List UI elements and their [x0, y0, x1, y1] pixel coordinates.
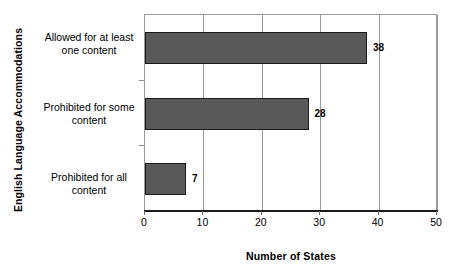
- category-label-line: content: [36, 114, 142, 127]
- bar-value-label: 38: [373, 42, 384, 53]
- x-axis-tick-label: 50: [416, 216, 456, 228]
- category-label-line: content: [36, 184, 142, 197]
- x-axis-tick: [202, 211, 203, 215]
- category-label-line: Allowed for at least: [36, 31, 142, 44]
- x-axis-line: [144, 210, 438, 212]
- category-label-line: Prohibited for all: [36, 171, 142, 184]
- bar-chart: English Language Accommodations Allowed …: [0, 0, 468, 280]
- x-axis-tick-label: 30: [299, 216, 339, 228]
- x-axis-tick-label: 40: [358, 216, 398, 228]
- x-axis-title: Number of States: [144, 250, 438, 262]
- x-axis-tick-label: 0: [124, 216, 164, 228]
- category-label-prohibited-for-all-content: Prohibited for all content: [36, 171, 142, 197]
- category-label-allowed-for-at-least-one-content: Allowed for at least one content: [36, 31, 142, 57]
- y-axis-title: English Language Accommodations: [0, 0, 36, 240]
- bar: [145, 163, 186, 195]
- x-axis-tick: [319, 211, 320, 215]
- category-label-line: Prohibited for some: [36, 101, 142, 114]
- category-labels: Allowed for at least one content Prohibi…: [36, 14, 142, 211]
- x-axis-tick: [436, 211, 437, 215]
- plot-inner: 38287: [145, 15, 436, 210]
- bar: [145, 98, 309, 130]
- bar: [145, 32, 367, 64]
- x-axis-tick-label: 10: [182, 216, 222, 228]
- plot-area: 38287: [144, 14, 437, 211]
- gridline: [437, 15, 438, 210]
- x-axis-tick: [144, 211, 145, 215]
- y-axis-tick: [139, 80, 144, 81]
- y-axis-tick: [139, 145, 144, 146]
- bar-value-label: 7: [192, 173, 198, 184]
- x-axis-tick: [261, 211, 262, 215]
- bar-value-label: 28: [315, 108, 326, 119]
- x-axis-tick: [378, 211, 379, 215]
- x-axis-tick-label: 20: [241, 216, 281, 228]
- category-label-line: one content: [36, 44, 142, 57]
- category-label-prohibited-for-some-content: Prohibited for some content: [36, 101, 142, 127]
- y-axis-title-text: English Language Accommodations: [12, 28, 24, 212]
